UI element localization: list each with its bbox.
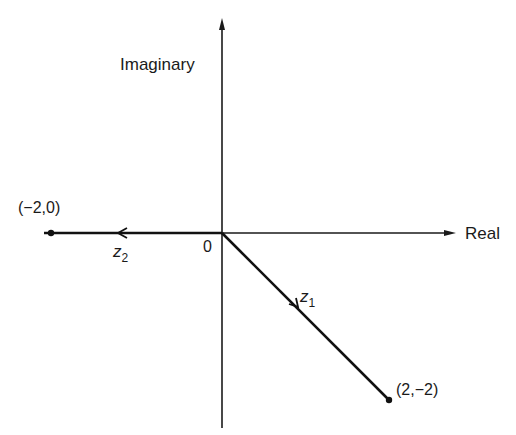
- imaginary-axis: [219, 18, 225, 428]
- vector-z1-line: [222, 233, 389, 400]
- vector-z2-endpoint-dot: [48, 230, 54, 236]
- imaginary-axis-label: Imaginary: [120, 55, 195, 74]
- real-axis: [222, 230, 456, 236]
- origin-label: 0: [203, 238, 212, 255]
- vector-z1-label: z1: [299, 287, 316, 310]
- complex-plane-diagram: Imaginary Real 0 (−2,0) z2 (2,−2) z1: [0, 0, 516, 435]
- imaginary-axis-arrow-icon: [219, 18, 225, 30]
- vector-z1: (2,−2) z1: [222, 233, 438, 403]
- vector-z1-label-subscript: 1: [309, 296, 316, 310]
- vector-z2-endpoint-label: (−2,0): [18, 199, 60, 216]
- vector-z2-label: z2: [112, 242, 129, 265]
- real-axis-arrow-icon: [444, 230, 456, 236]
- vector-z1-endpoint-label: (2,−2): [396, 381, 438, 398]
- vector-z1-endpoint-dot: [386, 397, 392, 403]
- real-axis-label: Real: [465, 224, 500, 243]
- vector-z2: (−2,0) z2: [18, 199, 222, 265]
- vector-z2-label-subscript: 2: [122, 251, 129, 265]
- vector-z2-label-base: z: [112, 242, 122, 261]
- vector-z1-label-base: z: [299, 287, 309, 306]
